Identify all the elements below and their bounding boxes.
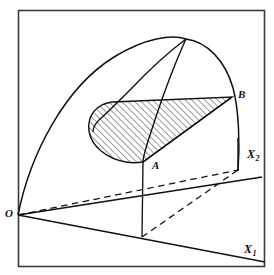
label-point-b: B bbox=[238, 89, 245, 100]
x2-axis-line bbox=[18, 177, 262, 215]
label-axis-x1: X1 bbox=[244, 243, 257, 259]
label-axis-x2-base: X bbox=[247, 147, 255, 161]
label-origin: O bbox=[5, 208, 13, 219]
figure-root: O A B X1 X2 bbox=[0, 0, 274, 275]
label-axis-x1-subscript: 1 bbox=[253, 249, 257, 258]
label-axis-x2-subscript: 2 bbox=[256, 154, 260, 163]
hatched-cross-section bbox=[80, 90, 245, 175]
label-point-a: A bbox=[152, 160, 159, 171]
x1-axis-line bbox=[18, 215, 265, 262]
dashed-base-diagonal bbox=[142, 170, 238, 237]
figure-canvas bbox=[0, 0, 274, 275]
label-axis-x2: X2 bbox=[247, 148, 260, 164]
label-axis-x1-base: X bbox=[244, 242, 252, 256]
vertical-drop-line-a bbox=[142, 162, 143, 237]
